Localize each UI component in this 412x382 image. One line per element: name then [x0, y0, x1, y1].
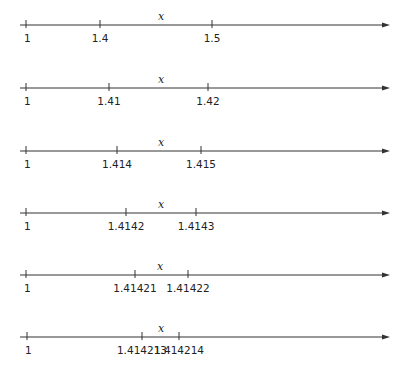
tick-label: 1.414214 — [154, 344, 204, 356]
arrow-head-icon — [382, 211, 390, 216]
arrow-head-icon — [382, 273, 390, 278]
number-line: x11.4141.415 — [20, 136, 390, 170]
arrow-head-icon — [382, 23, 390, 28]
tick-label: 1.4 — [92, 32, 109, 44]
tick-label: 1 — [24, 95, 31, 107]
tick-label: 1 — [24, 220, 31, 232]
tick-label: 1 — [24, 32, 31, 44]
tick-label: 1 — [25, 344, 32, 356]
arrow-head-icon — [382, 86, 390, 91]
variable-label: x — [158, 136, 165, 149]
variable-label: x — [158, 198, 165, 211]
arrow-head-icon — [382, 335, 390, 340]
number-line-diagram: x11.41.5x11.411.42x11.4141.415x11.41421.… — [0, 0, 412, 382]
tick-label: 1.41 — [97, 95, 120, 107]
number-line: x11.4142131.414214 — [20, 322, 390, 356]
variable-label: x — [158, 73, 165, 86]
number-line: x11.41421.4143 — [20, 198, 390, 232]
tick-label: 1.5 — [204, 32, 221, 44]
variable-label: x — [158, 10, 165, 23]
number-line: x11.414211.41422 — [20, 260, 390, 294]
tick-label: 1.42 — [196, 95, 219, 107]
arrow-head-icon — [382, 149, 390, 154]
tick-label: 1.41421 — [113, 282, 156, 294]
tick-label: 1.4142 — [108, 220, 145, 232]
tick-label: 1.415 — [186, 158, 216, 170]
variable-label: x — [157, 260, 164, 273]
variable-label: x — [158, 322, 165, 335]
tick-label: 1 — [24, 158, 31, 170]
tick-label: 1.414 — [102, 158, 132, 170]
tick-label: 1.41422 — [166, 282, 209, 294]
tick-label: 1.4143 — [178, 220, 215, 232]
number-line: x11.411.42 — [20, 73, 390, 107]
tick-label: 1 — [24, 282, 31, 294]
number-line: x11.41.5 — [20, 10, 390, 44]
